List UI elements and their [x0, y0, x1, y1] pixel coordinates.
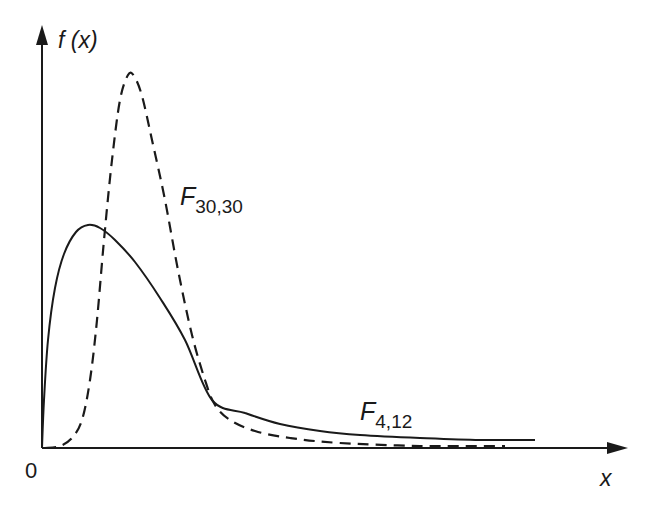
f-4-12-curve	[42, 225, 535, 448]
f-30-30-label-sub: 30,30	[195, 196, 243, 217]
f-distribution-chart: f (x) 0 x F30,30 F4,12	[0, 0, 647, 512]
f-4-12-label-sub: 4,12	[375, 411, 412, 432]
chart-canvas: f (x) 0 x F30,30 F4,12	[0, 0, 647, 512]
x-axis-label: x	[599, 465, 613, 491]
y-axis-label: f (x)	[58, 27, 98, 53]
origin-label: 0	[25, 458, 37, 483]
f-30-30-label: F30,30	[180, 182, 243, 217]
f-30-30-curve	[45, 73, 505, 448]
f-4-12-label: F4,12	[360, 397, 412, 432]
x-axis-arrow-icon	[607, 442, 628, 454]
y-axis-arrow-icon	[36, 25, 48, 45]
